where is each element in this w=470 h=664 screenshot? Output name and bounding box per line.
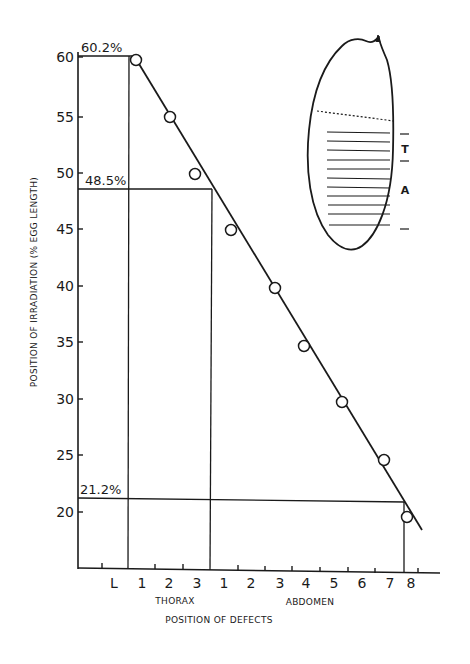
data-point — [190, 169, 201, 180]
x-tick-label: 4 — [302, 575, 311, 591]
x-tick-label: 3 — [276, 575, 285, 591]
x-tick-label: 3 — [193, 575, 202, 591]
ref-label-21-2: 21.2% — [80, 482, 121, 497]
y-tick-label: 25 — [56, 447, 74, 463]
data-point — [270, 283, 281, 294]
egg-inset: T A — [308, 35, 410, 250]
data-point — [402, 512, 413, 523]
y-tick-label: 55 — [56, 109, 74, 125]
x-axis-title: POSITION OF DEFECTS — [165, 615, 273, 625]
x-axis — [78, 568, 440, 573]
data-point — [299, 341, 310, 352]
x-tick-label: 7 — [386, 575, 395, 591]
data-point — [131, 55, 142, 66]
chart-canvas: 60 55 50 45 40 35 30 25 20 POSITION OF I… — [0, 0, 470, 664]
x-tick-label: 1 — [138, 575, 147, 591]
y-tick-label: 60 — [56, 49, 74, 65]
y-tick-label: 40 — [56, 278, 74, 294]
abdomen-label: ABDOMEN — [286, 597, 335, 607]
ref-label-48-5: 48.5% — [85, 173, 126, 188]
x-tick-label: 2 — [247, 575, 256, 591]
x-tick-labels: L 1 2 3 1 2 3 4 5 6 7 8 — [110, 575, 415, 591]
y-tick-label: 50 — [56, 165, 74, 181]
y-tick-labels: 60 55 50 45 40 35 30 25 20 — [56, 49, 74, 520]
data-point — [379, 455, 390, 466]
egg-label-abdomen: A — [401, 184, 410, 197]
data-point — [226, 225, 237, 236]
x-tick-label: 1 — [220, 575, 229, 591]
x-tick-label: 8 — [407, 575, 416, 591]
y-tick-label: 35 — [56, 334, 74, 350]
y-tick-label: 30 — [56, 391, 74, 407]
x-tick-label: 5 — [330, 575, 339, 591]
egg-outline — [308, 36, 394, 250]
thorax-label: THORAX — [154, 596, 194, 606]
ref-label-60-2: 60.2% — [81, 40, 122, 55]
egg-label-thorax: T — [401, 143, 409, 156]
data-point — [165, 112, 176, 123]
y-axis-title: POSITION OF IRRADIATION (% EGG LENGTH) — [29, 177, 39, 387]
y-tick-label: 45 — [56, 221, 74, 237]
x-tick-label-l: L — [110, 575, 118, 591]
x-tick-label: 6 — [358, 575, 367, 591]
y-tick-label: 20 — [56, 504, 74, 520]
x-tick-label: 2 — [165, 575, 174, 591]
data-point — [337, 397, 348, 408]
